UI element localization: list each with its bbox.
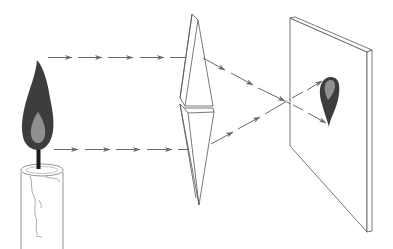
prism-pair [180,14,214,205]
candle-flame [22,60,54,150]
lower-prism [180,104,214,205]
screen-side-edge [367,50,372,232]
prism-refraction-diagram: Candle light refracted by two stacked pr… [0,0,393,249]
screen [290,17,372,232]
candle [21,145,63,249]
wax-drips [30,176,60,237]
incident-rays [48,58,204,150]
candle-body [21,172,63,249]
upper-prism [180,14,213,106]
candle-top-rim [21,164,63,176]
